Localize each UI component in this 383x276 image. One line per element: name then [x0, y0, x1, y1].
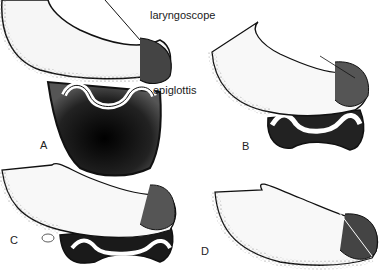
- illustration: [0, 0, 383, 276]
- panel-label-c: C: [10, 235, 18, 246]
- panel-label-b: B: [242, 141, 249, 152]
- panel-b-drawing: [212, 22, 369, 150]
- panel-label-d: D: [201, 246, 209, 257]
- laryngoscope-label: laryngoscope: [150, 10, 215, 21]
- panel-label-a: A: [40, 140, 47, 151]
- epiglottis-label: epiglottis: [153, 85, 196, 96]
- artist-signature: [42, 234, 54, 242]
- panel-a-drawing: [2, 0, 172, 176]
- panel-c-drawing: [2, 164, 176, 263]
- panel-d-drawing: [215, 184, 377, 265]
